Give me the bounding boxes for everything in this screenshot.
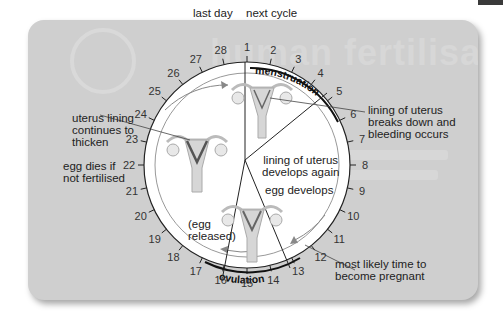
day-number: 14 <box>267 274 279 286</box>
day-tick <box>149 210 154 213</box>
day-number: 2 <box>270 44 276 56</box>
egg-dies-label: egg dies if not fertilised <box>63 160 125 184</box>
lining-develops-label: lining of uterus develops again <box>262 154 339 178</box>
day-number: 6 <box>350 108 356 120</box>
day-tick <box>340 210 345 213</box>
day-number: 20 <box>135 210 147 222</box>
lining-breaks-down-label: lining of uterus breaks down and bleedin… <box>368 104 456 140</box>
day-tick <box>162 97 167 101</box>
egg-develops-label: egg develops <box>265 184 333 196</box>
egg-released-label: (egg released) <box>188 218 236 242</box>
day-tick <box>162 229 167 233</box>
next-cycle-label: next cycle <box>246 7 297 19</box>
most-likely-label: most likely time to become pregnant <box>335 258 426 282</box>
day-number: 8 <box>362 159 368 171</box>
day-tick <box>347 141 353 142</box>
day-number: 27 <box>190 53 202 65</box>
day-tick <box>270 59 271 65</box>
day-number: 5 <box>336 85 342 97</box>
day-tick <box>179 246 183 251</box>
day-tick <box>179 80 183 85</box>
day-number: 19 <box>149 233 161 245</box>
day-tick <box>141 141 147 142</box>
pointer-line <box>332 107 365 112</box>
day-number: 16 <box>215 274 227 286</box>
day-number: 21 <box>126 185 138 197</box>
day-tick <box>340 118 345 121</box>
day-number: 1 <box>244 41 250 53</box>
day-tick <box>200 258 203 263</box>
day-tick <box>149 118 154 121</box>
day-number: 28 <box>215 44 227 56</box>
day-number: 12 <box>314 251 326 263</box>
day-tick <box>141 188 147 189</box>
day-tick <box>223 59 224 65</box>
day-number: 9 <box>359 185 365 197</box>
lining-thickens-label: uterus lining continues to thicken <box>72 112 134 148</box>
day-tick <box>347 188 353 189</box>
day-number: 10 <box>347 210 359 222</box>
cycle-diagram: menstruation ovulation <box>0 0 503 317</box>
day-number: 7 <box>359 133 365 145</box>
day-number: 3 <box>295 53 301 65</box>
day-tick <box>328 229 333 233</box>
day-tick <box>328 97 333 101</box>
day-number: 25 <box>149 85 161 97</box>
day-number: 18 <box>167 251 179 263</box>
day-number: 11 <box>334 233 345 245</box>
last-day-label: last day <box>193 7 233 19</box>
day-number: 13 <box>292 265 304 277</box>
day-tick <box>200 67 203 72</box>
day-number: 4 <box>318 67 324 79</box>
day-number: 15 <box>241 277 253 289</box>
day-number: 17 <box>190 265 202 277</box>
day-number: 26 <box>167 67 179 79</box>
day-number: 24 <box>135 108 147 120</box>
